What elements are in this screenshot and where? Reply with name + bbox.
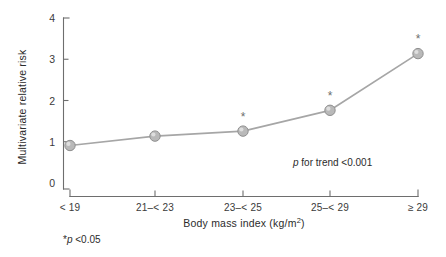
x-axis-title: Body mass index (kg/m2) <box>183 216 304 229</box>
x-tick-label-1: 21–< 23 <box>136 202 174 213</box>
y-tick-label-3: 3 <box>49 53 55 65</box>
marker-highlight <box>239 127 243 131</box>
y-tick-label-0: 0 <box>49 177 55 189</box>
marker-highlight <box>66 142 70 146</box>
marker-highlight <box>151 132 155 136</box>
significance-asterisk-4: * <box>416 32 421 46</box>
significance-asterisk-3: * <box>328 89 333 103</box>
data-point-3 <box>325 105 335 115</box>
x-tick-label-2: 23–< 25 <box>224 202 262 213</box>
x-tick-label-3: 25–< 29 <box>311 202 349 213</box>
footnote-significance: *p <0.05 <box>63 234 101 245</box>
significance-asterisk-2: * <box>241 110 246 124</box>
x-tick-label-0: < 19 <box>60 202 81 213</box>
data-point-2 <box>238 126 248 136</box>
x-axis-title-close: ) <box>301 217 305 229</box>
marker-circle <box>238 126 248 136</box>
y-axis-title: Multivariate relative risk <box>16 49 28 164</box>
y-tick-label-1: 1 <box>49 136 55 148</box>
marker-circle <box>150 131 160 141</box>
x-axis-title-main: Body mass index (kg/m <box>183 217 296 229</box>
data-point-0 <box>65 140 75 150</box>
marker-highlight <box>414 50 418 54</box>
marker-circle <box>65 140 75 150</box>
p-for-trend-rest: for trend <0.001 <box>299 157 373 168</box>
y-tick-label-2: 2 <box>49 95 55 107</box>
marker-circle <box>413 48 423 58</box>
data-point-1 <box>150 131 160 141</box>
footnote-rest: <0.05 <box>72 234 101 245</box>
data-point-4 <box>413 48 423 58</box>
x-tick-label-4: ≥ 29 <box>408 202 428 213</box>
y-tick-label-4: 4 <box>49 12 55 24</box>
marker-highlight <box>326 107 330 111</box>
p-for-trend-annotation: p for trend <0.001 <box>292 157 373 168</box>
chart-figure: 4 3 2 1 0 Multivariate relative risk < 1… <box>0 0 446 257</box>
line-chart: 4 3 2 1 0 Multivariate relative risk < 1… <box>0 0 446 257</box>
marker-circle <box>325 105 335 115</box>
